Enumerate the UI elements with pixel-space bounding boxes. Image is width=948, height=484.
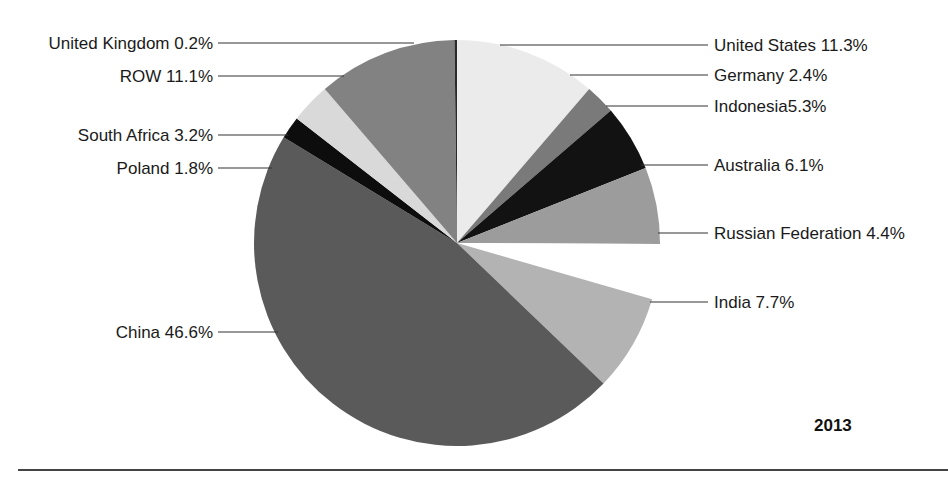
slice-label: Australia 6.1% bbox=[714, 156, 824, 175]
pie-slices bbox=[254, 40, 660, 446]
slice-label: United States 11.3% bbox=[714, 36, 868, 55]
slice-label: Indonesia5.3% bbox=[714, 97, 826, 116]
slice-label: ROW 11.1% bbox=[120, 67, 213, 86]
slice-label: South Africa 3.2% bbox=[78, 126, 213, 145]
slice-label: Poland 1.8% bbox=[117, 159, 213, 178]
year-annotation: 2013 bbox=[814, 416, 852, 435]
slice-label: United Kingdom 0.2% bbox=[49, 34, 213, 53]
slice-label: China 46.6% bbox=[116, 323, 213, 342]
pie-chart: United States 11.3%Germany 2.4%Indonesia… bbox=[0, 0, 948, 484]
slice-label: Germany 2.4% bbox=[714, 66, 827, 85]
slice-label: Russian Federation 4.4% bbox=[714, 224, 905, 243]
slice-label: India 7.7% bbox=[714, 293, 794, 312]
